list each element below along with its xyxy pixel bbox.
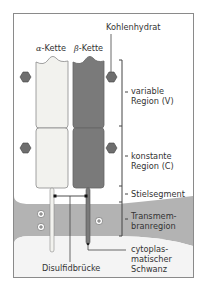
positive-charge-icon bbox=[37, 210, 44, 217]
label-cytoplasmic-tail: cytoplas- matischer Schwanz bbox=[131, 244, 172, 274]
positive-charge-icon bbox=[37, 223, 44, 230]
alpha-variable-domain bbox=[36, 56, 68, 128]
beta-constant-domain bbox=[73, 128, 104, 188]
label-beta-chain: β-Kette bbox=[74, 43, 103, 53]
label-disulfide-bridge: Disulfidbrücke bbox=[42, 263, 100, 273]
positive-charge-icon bbox=[95, 217, 102, 224]
alpha-constant-domain bbox=[36, 128, 68, 188]
label-variable-region: variable Region (V) bbox=[131, 86, 174, 106]
label-constant-region: konstante Region (C) bbox=[131, 151, 174, 171]
label-transmembrane-region: Transmem- branregion bbox=[131, 211, 177, 231]
label-stalk-segment: Stielsegment bbox=[131, 189, 185, 199]
label-alpha-chain: α-Kette bbox=[36, 43, 66, 53]
alpha-transmembrane-tail bbox=[50, 188, 54, 252]
label-carbohydrate: Kohlenhydrat bbox=[106, 22, 161, 32]
beta-variable-domain bbox=[73, 56, 104, 128]
